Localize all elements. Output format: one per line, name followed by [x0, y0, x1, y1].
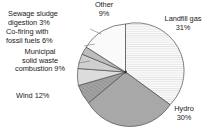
slice-label-landfill-gas: Landfill gas 31%: [155, 15, 211, 32]
slice-label-municipal-solid-waste: Municipal solid waste combustion 9%: [2, 48, 78, 74]
pie-chart: Other 9% Sewage sludge digestion 3% Co-f…: [0, 0, 211, 131]
callout-line-sewage-sludge: [90, 29, 101, 34]
slice-label-wind: Wind 12%: [16, 92, 74, 101]
slice-label-cofiring: Co-firing with fossil fuels 6%: [6, 28, 84, 45]
slice-label-hydro: Hydro 30%: [162, 105, 206, 122]
pie-center-dot: [124, 71, 127, 74]
slice-label-sewage-sludge: Sewage sludge digestion 3%: [8, 10, 90, 27]
